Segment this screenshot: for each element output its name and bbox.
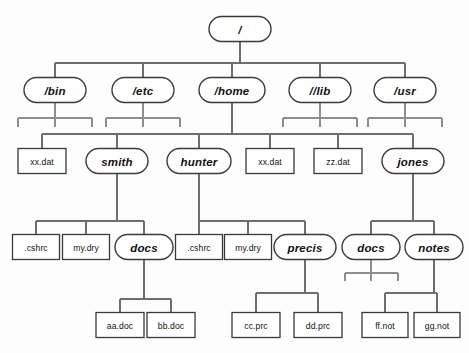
directory-node-home[interactable]: /home bbox=[199, 78, 265, 103]
node-label: docs bbox=[357, 242, 385, 254]
node-label: /bin bbox=[43, 85, 65, 97]
file-node-cshrc1[interactable]: .cshrc bbox=[13, 235, 60, 260]
node-label: /usr bbox=[393, 85, 416, 97]
node-label: smith bbox=[101, 156, 133, 168]
node-label: docs bbox=[130, 242, 158, 254]
directory-node-lib[interactable]: //lib bbox=[289, 78, 351, 103]
file-node-bbdoc[interactable]: bb.doc bbox=[147, 313, 195, 338]
node-label: ff.not bbox=[375, 321, 395, 331]
directory-node-etc[interactable]: /etc bbox=[112, 78, 174, 103]
node-label: xx.dat bbox=[258, 157, 282, 167]
node-label: hunter bbox=[181, 156, 218, 168]
directory-node-docs1[interactable]: docs bbox=[115, 235, 173, 260]
node-label: xx.dat bbox=[30, 157, 54, 167]
node-label: /home bbox=[214, 85, 250, 97]
file-node-aadoc[interactable]: aa.doc bbox=[96, 313, 144, 338]
node-label: .cshrc bbox=[187, 243, 211, 253]
file-node-cshrc2[interactable]: .cshrc bbox=[176, 235, 223, 260]
file-node-xxdat1[interactable]: xx.dat bbox=[18, 149, 66, 174]
file-node-zzdat[interactable]: zz.dat bbox=[314, 149, 362, 174]
directory-node-bin[interactable]: /bin bbox=[24, 78, 86, 103]
node-label: jones bbox=[395, 156, 428, 168]
directory-node-root[interactable]: / bbox=[209, 17, 271, 42]
file-node-ddprc[interactable]: dd.prc bbox=[294, 313, 342, 338]
node-label: notes bbox=[418, 242, 450, 254]
node-label: aa.doc bbox=[107, 321, 134, 331]
file-node-mydry2[interactable]: my.dry bbox=[225, 235, 272, 260]
node-label: dd.prc bbox=[306, 321, 331, 331]
directory-node-usr[interactable]: /usr bbox=[374, 78, 436, 103]
node-label: .cshrc bbox=[24, 243, 48, 253]
directory-node-docs2[interactable]: docs bbox=[342, 235, 400, 260]
node-label: //lib bbox=[309, 85, 331, 97]
node-label: /etc bbox=[132, 85, 154, 97]
directory-node-jones[interactable]: jones bbox=[382, 149, 444, 174]
directory-node-smith[interactable]: smith bbox=[86, 149, 148, 174]
file-node-ffnot[interactable]: ff.not bbox=[362, 313, 408, 338]
directory-node-notes[interactable]: notes bbox=[405, 235, 463, 260]
file-node-mydry1[interactable]: my.dry bbox=[63, 235, 110, 260]
file-node-ccprc[interactable]: cc.prc bbox=[232, 313, 280, 338]
diagram-canvas: //bin/etc/home//lib/usrxx.datsmithhunter… bbox=[0, 0, 469, 353]
node-label: bb.doc bbox=[158, 321, 185, 331]
node-layer: //bin/etc/home//lib/usrxx.datsmithhunter… bbox=[13, 17, 464, 338]
filesystem-tree-diagram: //bin/etc/home//lib/usrxx.datsmithhunter… bbox=[0, 0, 469, 353]
node-label: precis bbox=[286, 242, 322, 254]
file-node-ggnot[interactable]: gg.not bbox=[414, 313, 460, 338]
node-label: my.dry bbox=[73, 243, 99, 253]
node-label: gg.not bbox=[425, 321, 450, 331]
node-label: cc.prc bbox=[244, 321, 268, 331]
directory-node-precis[interactable]: precis bbox=[274, 235, 336, 260]
node-label: zz.dat bbox=[326, 157, 350, 167]
file-node-xxdat2[interactable]: xx.dat bbox=[246, 149, 294, 174]
node-label: my.dry bbox=[235, 243, 261, 253]
directory-node-hunter[interactable]: hunter bbox=[167, 149, 231, 174]
